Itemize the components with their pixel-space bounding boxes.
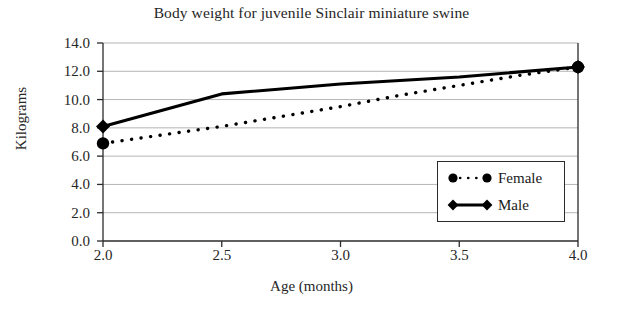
legend-label-male: Male	[498, 198, 529, 213]
series-line-female	[103, 67, 578, 143]
chart-figure: Body weight for juvenile Sinclair miniat…	[0, 0, 623, 317]
data-series-layer	[96, 60, 585, 150]
data-point-marker-female	[97, 137, 109, 149]
data-point-marker-male	[571, 60, 585, 74]
legend-item-male: Male	[446, 192, 529, 218]
data-point-marker-male	[96, 119, 110, 133]
plot-area	[0, 0, 623, 317]
series-line-male	[103, 67, 578, 126]
legend-label-female: Female	[498, 171, 542, 186]
legend-sample-male	[446, 195, 494, 215]
legend-sample-female	[446, 168, 494, 188]
legend: Female Male	[437, 161, 565, 222]
legend-item-female: Female	[446, 165, 542, 191]
